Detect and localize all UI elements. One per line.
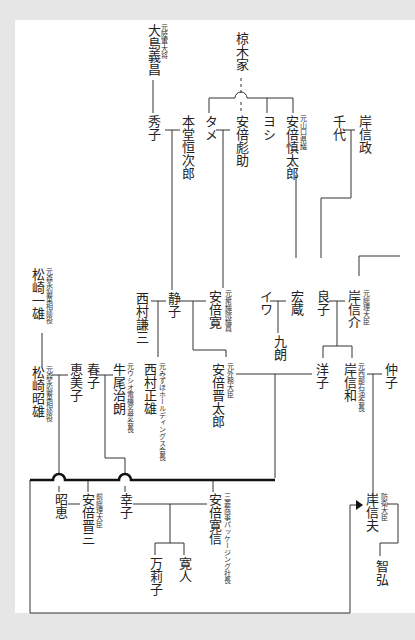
person-mukunoki-family: 椋木家: [234, 32, 248, 71]
caption-matsuzaki-ichio: 元森永製菓相談役: [45, 268, 53, 324]
caption-kishi-nobuo: 防衛大臣: [380, 493, 388, 521]
person-matsuzaki-ichio: 松崎一雄: [30, 268, 44, 320]
person-abe-hikosuke: 安倍彪助: [234, 115, 248, 167]
person-mariko: 万莉子: [148, 557, 162, 596]
person-kishi-nobukazu: 岸信和: [342, 363, 356, 402]
caption-abe-shintaro: 元外務大臣: [226, 363, 234, 398]
person-hideko: 秀子: [146, 115, 160, 141]
person-nishimura-kenzo: 西村謙三: [134, 292, 148, 344]
person-abe-shintaro: 安倍晋太郎: [210, 363, 224, 428]
person-tame: タメ: [203, 115, 217, 141]
person-hiroku: 宏蔵: [289, 290, 303, 316]
person-kishi-nobuo: 岸信夫: [364, 493, 378, 532]
person-kishi-nobumasa: 岸信政: [357, 115, 371, 154]
person-haruko: 春子: [85, 363, 99, 389]
caption-abe-kan: 元衆議院議員: [224, 290, 232, 332]
caption-abe-shintaro-elder: 元山口県議: [299, 115, 307, 150]
person-akie: 昭恵: [53, 493, 67, 519]
person-shizuko: 静子: [166, 292, 180, 318]
person-iwa: イワ: [258, 290, 272, 316]
person-yoshiko: 良子: [315, 290, 329, 316]
caption-abe-shinzo: 前総理大臣: [95, 493, 103, 528]
person-abe-shintaro-elder: 安倍慎太郎: [284, 115, 298, 180]
person-kuro: 九朗: [272, 335, 286, 361]
person-matsuzaki-akio: 松崎昭雄: [30, 366, 44, 418]
caption-matsuzaki-akio: 元森永製菓相談役: [45, 366, 53, 422]
person-kishi-nobusuke: 岸信介: [346, 290, 360, 329]
person-abe-hironobu: 安倍寛信: [207, 493, 221, 545]
person-nishimura-masao: 西村正雄: [142, 363, 156, 415]
person-hondo-tsunejiro: 本堂恒次郎: [180, 115, 194, 180]
person-sachiko: 幸子: [118, 493, 132, 519]
person-chiyo: 千代: [331, 115, 345, 141]
person-yoshi: ヨシ: [261, 115, 275, 141]
person-abe-shinzo: 安倍晋三: [80, 493, 94, 545]
person-abe-kan: 安倍寛: [207, 290, 221, 329]
caption-kishi-nobusuke: 元総理大臣: [362, 290, 370, 325]
person-emiko: 恵美子: [68, 363, 82, 402]
person-hiroto: 寛人: [177, 557, 191, 583]
caption-abe-hironobu: 三菱商事パッケージング社長: [223, 493, 231, 584]
person-ushio-jiro: 牛尾治朗: [111, 363, 125, 415]
person-nakako: 仲子: [383, 363, 397, 389]
person-oshima-yoshimasa: 大島義昌: [146, 24, 160, 76]
person-yoko: 洋子: [314, 363, 328, 389]
person-tomohiro: 智弘: [374, 560, 388, 586]
caption-kishi-nobukazu: 元西部石油会長: [357, 363, 365, 412]
caption-nishimura-masao: 元みずほホールディングス会長: [158, 363, 166, 461]
caption-ushio-jiro: 元ウシオ電機名誉会長: [126, 363, 134, 433]
caption-oshima-yoshimasa: 元陸軍大将: [160, 24, 168, 59]
